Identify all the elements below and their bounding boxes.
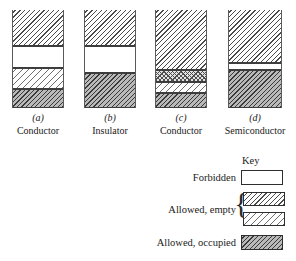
band-column-a — [12, 10, 64, 108]
legend-title: Key — [242, 155, 260, 166]
band-conduction-band-empty — [229, 10, 281, 63]
column-rail-right — [135, 10, 136, 108]
legend-label-allowed-occupied: Allowed, occupied — [124, 237, 236, 248]
band-forbidden-gap — [13, 46, 63, 68]
column-caption-d: Semiconductor — [210, 125, 296, 136]
band-column-d — [228, 10, 282, 108]
band-valence-band-occupied — [156, 93, 206, 108]
column-rail-right — [206, 10, 207, 108]
band-conduction-band-empty — [85, 10, 135, 46]
band-allowed-band-empty — [156, 82, 206, 93]
band-allowed-band-empty — [13, 68, 63, 89]
band-forbidden-gap — [85, 46, 135, 73]
band-forbidden-gap — [229, 63, 281, 70]
band-conduction-band-empty — [156, 10, 206, 70]
band-conduction-band-empty — [13, 10, 63, 46]
column-letter-d: (d) — [210, 112, 296, 123]
band-valence-band-occupied — [85, 73, 135, 108]
column-rail-right — [63, 10, 64, 108]
legend-swatch-forbidden — [241, 170, 283, 185]
band-diagram-figure: (a) Conductor (b) Insulator (c) Conducto… — [0, 0, 296, 261]
band-valence-band-occupied — [229, 70, 281, 108]
legend-label-allowed-empty: Allowed, empty — [140, 204, 236, 215]
legend-label-forbidden: Forbidden — [150, 172, 236, 183]
band-column-c — [155, 10, 207, 108]
column-rail-right — [281, 10, 282, 108]
band-column-b — [84, 10, 136, 108]
legend-swatch-allowed-empty-lower — [243, 212, 285, 226]
legend: Key Forbidden Allowed, empty { Allowed, … — [150, 155, 296, 261]
band-allowed-band-occupied — [13, 89, 63, 108]
band-overlapping-bands — [156, 70, 206, 82]
legend-swatch-allowed-empty-upper — [243, 192, 285, 206]
legend-swatch-allowed-occupied — [241, 235, 283, 250]
